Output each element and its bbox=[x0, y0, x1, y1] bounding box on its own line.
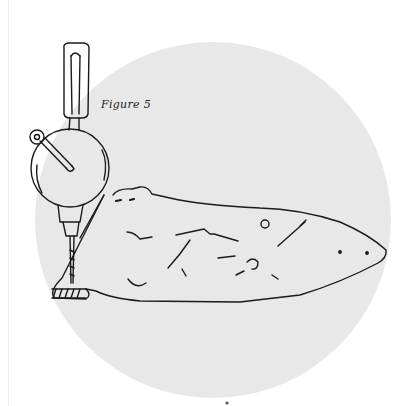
drill-illustration bbox=[0, 0, 407, 406]
figure-caption: Figure 5 bbox=[101, 98, 151, 111]
illustration-frame: Figure 5 bbox=[0, 0, 407, 406]
